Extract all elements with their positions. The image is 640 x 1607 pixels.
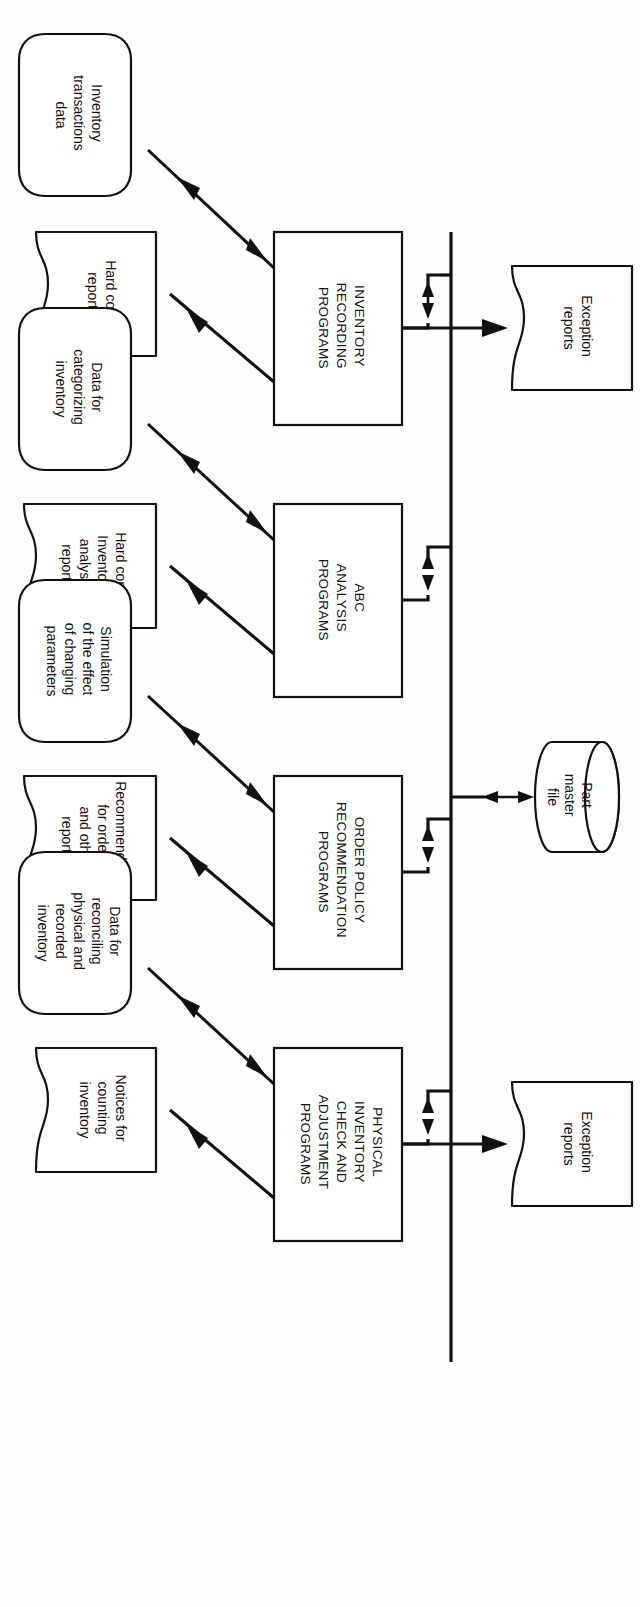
link-physical-to-data-for-reconciling [148,968,274,1084]
arrowhead [186,1124,208,1149]
process-label: PHYSICAL INVENTORY CHECK AND ADJUSTMENT … [298,1095,385,1194]
link-recording-to-inventory-transactions-data [148,150,274,268]
part-master-file-datastore: Part master file [482,742,619,852]
node-data-for-categorizing-inventory[interactable]: Data for categorizing inventory [19,308,131,470]
arrowhead-toward-node [246,1054,268,1078]
arrowhead-up [518,791,534,803]
process-abc-analysis-programs[interactable]: ABC ANALYSIS PROGRAMS [274,504,402,697]
arrowhead-down [482,791,498,803]
arrowhead [482,319,508,337]
rotated-diagram-wrapper: Part master file INVENTORY RECORDING PRO… [0,0,640,1607]
link-abc-to-data-for-categorizing-inventory [148,424,274,540]
inventory-system-flowchart: Part master file INVENTORY RECORDING PRO… [0,0,640,1607]
bus-branch-abc-analysis [402,547,451,600]
datastore-bus-connector [482,791,534,803]
link-physical-to-notices-for-counting-inventory [170,1110,274,1198]
arrowhead [186,852,208,877]
arrowhead [482,1135,508,1153]
bus-branch-physical-inventory [402,1091,451,1144]
link-order-policy-to-recommendation-reports [170,838,274,926]
link-recording-to-exception-reports [402,319,508,337]
link-physical-to-exception-reports [402,1135,508,1153]
link-order-policy-to-simulation [148,696,274,812]
node-exception-reports-physical[interactable]: Exception reports [512,1082,632,1206]
node-exception-reports-recording[interactable]: Exception reports [512,266,632,390]
bus-branch-inventory-recording [402,275,451,328]
node-inventory-transactions-data[interactable]: Inventory transactions data [19,34,131,196]
node-data-for-reconciling-physical-and-recorded-inventory[interactable]: Data for reconciling physical and record… [19,852,131,1014]
link-recording-to-hard-copy-reports [170,294,274,382]
arrowhead-toward-node [246,510,268,534]
process-physical-inventory-check-and-adjustment-programs[interactable]: PHYSICAL INVENTORY CHECK AND ADJUSTMENT … [274,1048,402,1241]
node-notices-for-counting-inventory[interactable]: Notices for counting inventory [36,1048,156,1172]
arrowhead [186,308,208,333]
diagram-page: Part master file INVENTORY RECORDING PRO… [0,0,640,1607]
node-label: Notices for counting inventory [77,1075,129,1146]
link-abc-to-hard-copy-inventory-analysis-reports [170,566,274,654]
process-inventory-recording-programs[interactable]: INVENTORY RECORDING PROGRAMS [274,232,402,425]
process-order-policy-recommendation-programs[interactable]: ORDER POLICY RECOMMENDATION PROGRAMS [274,776,402,969]
node-simulation-of-the-effect-of-changing-parameters[interactable]: Simulation of the effect of changing par… [19,580,131,742]
arrowhead-toward-node [246,782,268,806]
shared-data-bus [451,232,485,1362]
process-label: INVENTORY RECORDING PROGRAMS [316,283,367,373]
bus-branch-order-policy [402,819,451,872]
arrowhead [186,580,208,605]
arrowhead-toward-node [246,238,268,262]
